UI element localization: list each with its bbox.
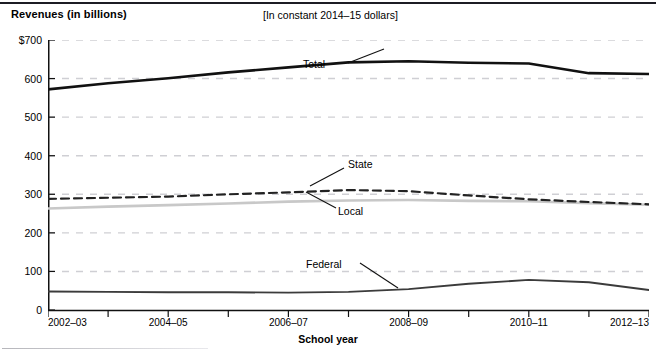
y-tick-label: 400 — [0, 150, 42, 162]
y-tick-label: $700 — [0, 34, 42, 46]
x-tick-label: 2012–13 — [610, 317, 649, 328]
y-tick-label: 600 — [0, 73, 42, 85]
bottom-divider-rule — [2, 348, 208, 349]
y-tick-label: 500 — [0, 111, 42, 123]
series-label-local: Local — [338, 205, 363, 217]
x-tick-label: 2010–11 — [510, 317, 548, 328]
data-lines-group — [48, 61, 649, 292]
series-line-total — [48, 61, 649, 89]
series-label-total: Total — [303, 58, 325, 70]
gridlines-group — [48, 40, 649, 271]
series-label-federal: Federal — [306, 258, 342, 270]
leader-line-federal — [360, 263, 398, 288]
y-tick-label: 300 — [0, 188, 42, 200]
x-tick-label: 2008–09 — [389, 317, 428, 328]
series-label-state: State — [348, 158, 373, 170]
plot-area: 0100200300400500600$700 2002–032004–0520… — [48, 40, 649, 310]
x-tick-label: 2004–05 — [149, 317, 188, 328]
y-tick-label: 200 — [0, 227, 42, 239]
plot-svg — [48, 40, 649, 340]
top-divider-rule — [0, 2, 656, 4]
y-tick-label: 0 — [0, 304, 42, 316]
series-line-federal — [48, 280, 649, 293]
chart-figure: Revenues (in billions) [In constant 2014… — [0, 0, 656, 357]
x-tick-label: 2006–07 — [269, 317, 308, 328]
x-tick-label: 2002–03 — [48, 317, 87, 328]
y-axis-title: Revenues (in billions) — [11, 8, 127, 20]
leader-line-state — [310, 168, 344, 186]
chart-subtitle: [In constant 2014–15 dollars] — [263, 9, 398, 21]
y-tick-label: 100 — [0, 265, 42, 277]
